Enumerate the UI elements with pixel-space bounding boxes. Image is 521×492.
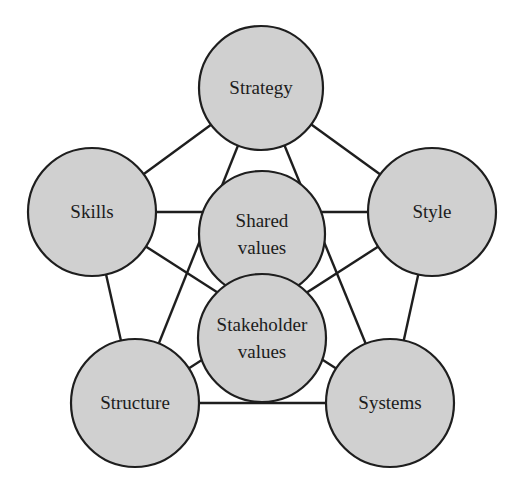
- center-nodes-layer: SharedvaluesStakeholdervalues: [198, 171, 326, 402]
- seven-s-diagram: StrategySkillsStyleStructureSystems Shar…: [0, 0, 521, 492]
- node-label-stakeholder-line1: Stakeholder: [217, 314, 308, 335]
- node-label-strategy: Strategy: [229, 77, 293, 98]
- node-style: Style: [368, 148, 496, 276]
- node-label-shared-line1: Shared: [236, 210, 289, 231]
- node-stakeholder: Stakeholdervalues: [198, 274, 326, 402]
- node-systems: Systems: [326, 339, 454, 467]
- node-structure: Structure: [71, 339, 199, 467]
- node-label-style: Style: [412, 201, 451, 222]
- node-label-shared-line2: values: [238, 237, 287, 258]
- node-circle-stakeholder: [198, 274, 326, 402]
- node-label-structure: Structure: [100, 392, 170, 413]
- node-label-stakeholder-line2: values: [238, 341, 287, 362]
- node-label-systems: Systems: [358, 392, 421, 413]
- node-strategy: Strategy: [199, 26, 323, 150]
- node-skills: Skills: [28, 148, 156, 276]
- node-label-skills: Skills: [70, 201, 113, 222]
